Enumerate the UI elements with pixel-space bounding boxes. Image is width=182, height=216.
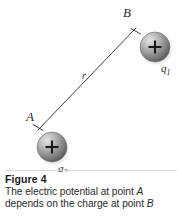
diagram-illustration: B A r q1	[0, 0, 182, 172]
caption-text: The electric potential at point A depend…	[5, 186, 178, 211]
distance-line	[38, 28, 136, 130]
charge-label-q1: q1	[161, 62, 171, 77]
caption-block: Figure 4 The electric potential at point…	[0, 170, 182, 216]
charge-sphere-q1	[140, 32, 173, 66]
caption-divider	[5, 170, 177, 171]
point-b-label: B	[123, 5, 131, 20]
caption-line-1: The electric potential at point A	[5, 186, 178, 198]
point-a-label: A	[25, 109, 34, 124]
caption-line-1-text: The electric potential at point	[5, 186, 136, 197]
diagram-svg: B A r q1	[0, 0, 182, 172]
caption-point-a: A	[136, 186, 143, 197]
distance-label: r	[82, 70, 86, 81]
figure-number-label: Figure 4	[5, 173, 178, 185]
charge-sphere-q2	[37, 132, 70, 166]
caption-point-b: B	[147, 198, 154, 209]
caption-line-2: depends on the charge at point B	[5, 198, 178, 210]
figure-container: B A r q1	[0, 0, 182, 216]
q1-subscript: 1	[167, 68, 171, 77]
caption-line-2-text: depends on the charge at point	[5, 198, 147, 209]
